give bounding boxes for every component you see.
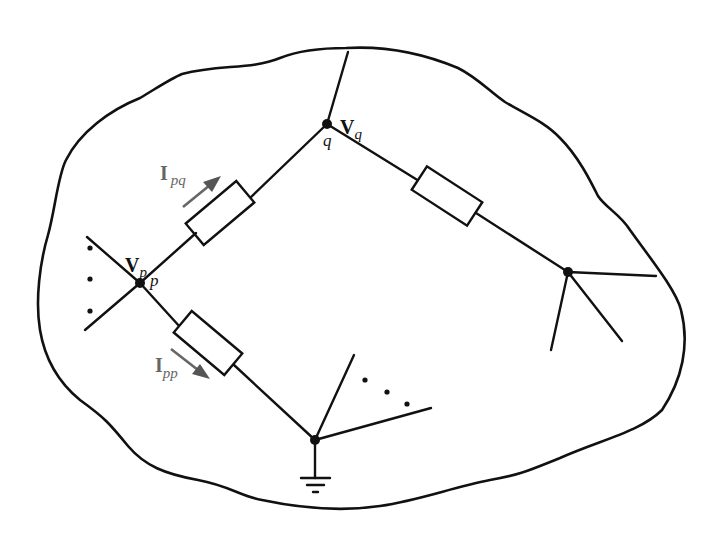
label-ipp: Ipp: [155, 354, 178, 381]
wire-right-south: [551, 272, 568, 350]
label-vp: Vp: [125, 254, 147, 280]
wire-ground-up: [315, 355, 354, 440]
wire-p-lower-left: [85, 283, 140, 330]
label-node-p: p: [149, 271, 159, 290]
ellipsis-ground-branches: [362, 377, 409, 406]
label-ipq: Ipq: [160, 162, 186, 188]
node-ground-junction: [310, 435, 320, 445]
wire-right-east: [568, 272, 656, 276]
wire-p-to-zpp: [140, 283, 180, 327]
node-p-group: [85, 237, 180, 330]
impedance-q-right: [412, 166, 483, 225]
wire-q-to-zpq: [249, 124, 327, 199]
impedance-pq: [186, 181, 255, 245]
right-node-group: [551, 267, 656, 350]
network-diagram: Vq q Vp p Ipq Ipp: [0, 0, 722, 537]
wire-ground-right: [315, 408, 431, 440]
node-right: [563, 267, 573, 277]
wire-zright-to-rightnode: [476, 213, 568, 272]
wire-q-up: [327, 52, 348, 124]
ellipsis-left: [87, 245, 92, 313]
node-q-group: [249, 52, 419, 199]
wire-p-to-zpq: [140, 233, 196, 283]
ground-icon: [301, 478, 330, 492]
label-node-q: q: [323, 131, 332, 150]
node-q: [322, 119, 332, 129]
wire-right-southeast: [568, 272, 622, 341]
ground-node-group: [310, 355, 431, 478]
impedance-pp: [174, 311, 243, 375]
wire-zpp-to-groundnode: [234, 365, 315, 440]
